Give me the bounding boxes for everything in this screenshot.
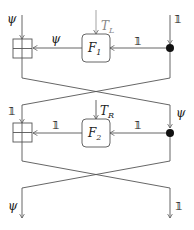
f1-label: F1	[87, 41, 101, 57]
r2-right-wire-label: 𝟙	[134, 119, 142, 132]
feistel-diagram: ψ 𝟙 ψ 𝟙 TL F1 𝟙 ψ TR 𝟙 𝟙 F2 ψ 𝟙	[0, 0, 194, 230]
r2-left-input-label: 𝟙	[8, 105, 16, 118]
r1-left-wire-label: ψ	[51, 32, 61, 46]
r1-right-wire-label: 𝟙	[134, 35, 142, 48]
f2-label: F2	[87, 126, 101, 142]
output-wire-right	[22, 142, 170, 218]
r2-right-input-label: ψ	[176, 106, 186, 120]
input-left-label: ψ	[7, 12, 17, 26]
fanout-dot-1	[166, 44, 174, 52]
output-left-label: ψ	[8, 199, 18, 213]
fanout-dot-2	[166, 129, 174, 137]
key-tl-label: TL	[101, 19, 114, 35]
key-tr-label: TR	[100, 104, 114, 120]
r2-left-wire-label: 𝟙	[52, 119, 60, 132]
input-right-label: 𝟙	[174, 13, 182, 26]
output-right-label: 𝟙	[175, 200, 183, 213]
output-wire-left	[22, 133, 170, 218]
